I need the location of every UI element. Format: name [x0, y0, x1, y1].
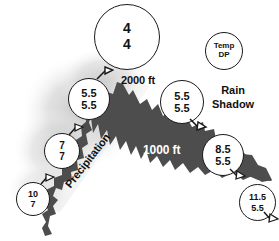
station-leeward-mid-temp: 8.5	[215, 143, 230, 155]
station-leeward-upper-dewpoint: 5.5	[174, 102, 189, 114]
station-windward-upper[interactable]: 5.5 5.5	[68, 78, 110, 120]
rain-shadow-line-2: Shadow	[212, 98, 254, 112]
station-windward-upper-dewpoint: 5.5	[81, 99, 96, 111]
station-windward-base[interactable]: 10 7	[16, 182, 50, 216]
legend-station[interactable]: Temp DP	[205, 32, 243, 70]
mid-elevation-label: 1000 ft	[143, 143, 180, 157]
station-leeward-upper-temp: 5.5	[174, 90, 189, 102]
rain-shadow-line-1: Rain	[212, 84, 254, 98]
station-leeward-mid[interactable]: 8.5 5.5	[202, 134, 244, 176]
summit-station[interactable]: 4 4	[94, 4, 160, 70]
station-leeward-upper[interactable]: 5.5 5.5	[160, 80, 204, 124]
summit-station-dewpoint: 4	[123, 37, 131, 53]
summit-elevation-label: 2000 ft	[121, 74, 155, 86]
station-windward-base-temp: 10	[28, 189, 38, 199]
station-leeward-base[interactable]: 11.5 5.5	[239, 184, 276, 221]
legend-dewpoint-label: DP	[218, 51, 229, 60]
diagram-canvas: 4 4 Temp DP 5.5 5.5 5.5 5.5 7 7 10 7	[0, 0, 279, 241]
station-windward-upper-temp: 5.5	[81, 87, 96, 99]
station-windward-mid-dewpoint: 7	[59, 151, 65, 162]
station-windward-base-dewpoint: 7	[30, 199, 35, 209]
rain-shadow-label: Rain Shadow	[212, 84, 254, 112]
station-leeward-base-dewpoint: 5.5	[251, 203, 264, 213]
station-windward-mid[interactable]: 7 7	[44, 133, 80, 169]
summit-station-temp: 4	[123, 21, 131, 37]
station-leeward-base-temp: 11.5	[249, 192, 266, 202]
station-leeward-mid-dewpoint: 5.5	[215, 155, 230, 167]
station-windward-mid-temp: 7	[59, 140, 65, 151]
